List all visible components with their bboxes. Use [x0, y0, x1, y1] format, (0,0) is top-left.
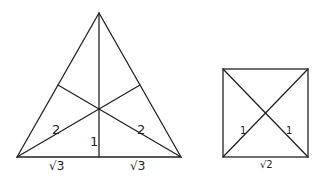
label-right-segment: 2: [137, 122, 145, 137]
label-height: 1: [90, 134, 98, 149]
label-base-left: √3: [49, 159, 64, 173]
label-base-right: √3: [130, 159, 145, 173]
triangle-median-right: [58, 85, 181, 157]
diagram-canvas: 2 2 1 √3 √3 1 1 √2: [0, 0, 325, 177]
label-right-half-diagonal: 1: [286, 125, 292, 136]
label-left-half-diagonal: 1: [240, 125, 246, 136]
label-left-segment: 2: [52, 122, 60, 137]
label-side: √2: [260, 159, 273, 170]
square: 1 1 √2: [223, 69, 308, 170]
triangle-median-left: [17, 85, 140, 157]
equilateral-triangle: 2 2 1 √3 √3: [17, 13, 181, 173]
